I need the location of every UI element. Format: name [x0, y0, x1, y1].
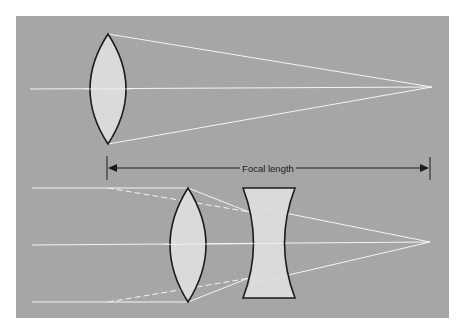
lens-diagram: Focal length — [0, 0, 466, 330]
focal-length-label: Focal length — [242, 163, 294, 174]
diagram-panel — [16, 16, 449, 318]
